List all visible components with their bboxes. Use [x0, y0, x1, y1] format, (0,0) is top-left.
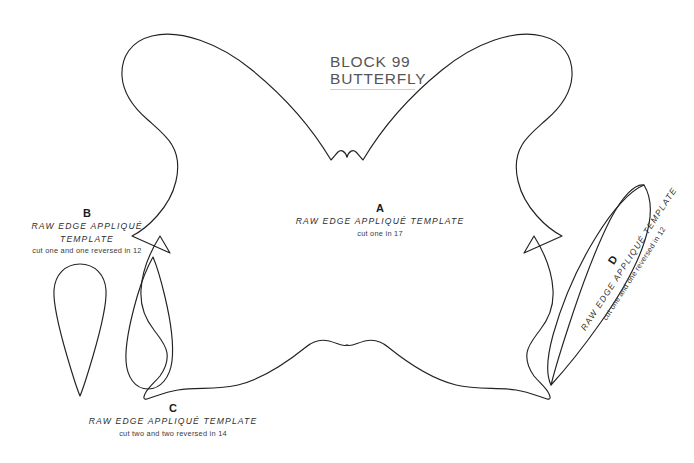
template-c-main-text: RAW EDGE APPLIQUÉ TEMPLATE [84, 415, 262, 428]
template-c-letter: C [84, 402, 262, 415]
sheet-title: BLOCK 99 BUTTERFLY [330, 54, 480, 90]
sheet-title-line-2: BUTTERFLY [330, 71, 480, 88]
template-label-b: B RAW EDGE APPLIQUÉ TEMPLATE cut one and… [8, 207, 166, 256]
template-a-sub-text: cut one in 17 [285, 228, 475, 239]
template-label-c: C RAW EDGE APPLIQUÉ TEMPLATE cut two and… [84, 402, 262, 439]
sheet-title-line-1: BLOCK 99 [330, 54, 480, 71]
template-b-main-text: RAW EDGE APPLIQUÉ TEMPLATE [8, 220, 166, 245]
template-c-sub-text: cut two and two reversed in 14 [84, 428, 262, 439]
template-b-sub-text: cut one and one reversed in 12 [8, 245, 166, 256]
template-a-letter: A [285, 202, 475, 215]
template-label-a: A RAW EDGE APPLIQUÉ TEMPLATE cut one in … [285, 202, 475, 239]
pattern-sheet: BLOCK 99 BUTTERFLY A RAW EDGE APPLIQUÉ T… [0, 0, 694, 463]
template-b-shape [54, 264, 106, 396]
template-b-letter: B [8, 207, 166, 220]
template-a-main-text: RAW EDGE APPLIQUÉ TEMPLATE [285, 215, 475, 228]
sheet-title-underline [330, 89, 415, 90]
